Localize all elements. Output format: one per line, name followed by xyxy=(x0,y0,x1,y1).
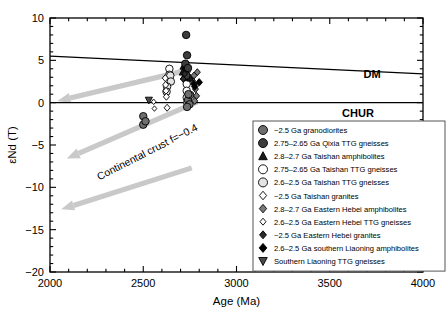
chart-root: 200025003000350040001050−5−10−15−20Age (… xyxy=(0,0,448,325)
legend-item-label: 2.75–2.65 Ga Qixia TTG gneisses xyxy=(274,139,389,148)
x-tick-label: 2000 xyxy=(38,277,62,289)
y-tick-label: −20 xyxy=(25,266,44,278)
chur-label: CHUR xyxy=(342,107,374,119)
y-tick-label: −5 xyxy=(31,139,44,151)
legend-item-label: 2.6–2.5 Ga southern Liaoning amphibolite… xyxy=(274,244,419,253)
legend-item[interactable]: 2.6–2.5 Ga southern Liaoning amphibolite… xyxy=(259,243,419,253)
x-axis-title: Age (Ma) xyxy=(213,295,260,307)
legend-item-label: 2.75–2.65 Ga Taishan TTG gneisses xyxy=(274,165,398,174)
end-vs-age-scatter-plot: 200025003000350040001050−5−10−15−20Age (… xyxy=(0,0,448,325)
legend-item-label: Southern Liaoning TTG gneisses xyxy=(274,257,385,266)
legend-item-label: ~2.5 Ga Taishan granites xyxy=(274,192,359,201)
legend-item[interactable]: 2.75–2.65 Ga Qixia TTG gneisses xyxy=(259,139,389,149)
legend: ~2.5 Ga granodiorites2.75–2.65 Ga Qixia … xyxy=(253,121,445,271)
legend-item-label: 2.6–2.5 Ga Eastern Hebei TTG gneisses xyxy=(274,218,411,227)
x-tick-label: 3000 xyxy=(224,277,248,289)
legend-item-label: ~2.5 Ga granodiorites xyxy=(274,126,347,135)
legend-item[interactable]: ~2.5 Ga Eastern Hebei granites xyxy=(260,231,381,240)
legend-item[interactable]: ~2.5 Ga Taishan granites xyxy=(259,191,358,200)
legend-item[interactable]: 2.8–2.7 Ga Taishan amphibolites xyxy=(259,152,385,162)
data-point-circle xyxy=(182,31,190,39)
data-point-circle xyxy=(142,118,150,126)
data-point-circle xyxy=(183,103,191,111)
legend-item-label: ~2.5 Ga Eastern Hebei granites xyxy=(274,231,381,240)
dm-label: DM xyxy=(363,68,380,80)
legend-item[interactable]: 2.6–2.5 Ga Taishan TTG gneisses xyxy=(259,178,390,188)
legend-item-label: 2.8–2.7 Ga Eastern Hebei amphibolites xyxy=(274,205,407,214)
data-point-circle xyxy=(185,90,193,98)
data-point-circle xyxy=(259,165,268,174)
legend-item[interactable]: 2.8–2.7 Ga Eastern Hebei amphibolites xyxy=(259,204,406,213)
legend-item[interactable]: Southern Liaoning TTG gneisses xyxy=(259,257,385,266)
x-tick-label: 3500 xyxy=(318,277,342,289)
data-point-circle xyxy=(259,139,268,148)
y-tick-label: −15 xyxy=(25,224,44,236)
data-point-circle xyxy=(259,126,268,135)
y-tick-label: 5 xyxy=(38,54,44,66)
data-point-circle xyxy=(259,178,268,187)
y-tick-label: 0 xyxy=(38,97,44,109)
legend-item[interactable]: 2.6–2.5 Ga Eastern Hebei TTG gneisses xyxy=(260,218,411,227)
y-tick-label: 10 xyxy=(32,12,44,24)
legend-item-label: 2.8–2.7 Ga Taishan amphibolites xyxy=(274,152,385,161)
y-axis-title: εNd (T) xyxy=(6,126,18,164)
data-point-circle xyxy=(183,52,191,60)
data-point-circle xyxy=(184,64,192,72)
x-tick-label: 4000 xyxy=(411,277,435,289)
legend-item[interactable]: 2.75–2.65 Ga Taishan TTG gneisses xyxy=(259,165,398,175)
y-tick-label: −10 xyxy=(25,181,44,193)
x-tick-label: 2500 xyxy=(131,277,155,289)
legend-item-label: 2.6–2.5 Ga Taishan TTG gneisses xyxy=(274,178,389,187)
